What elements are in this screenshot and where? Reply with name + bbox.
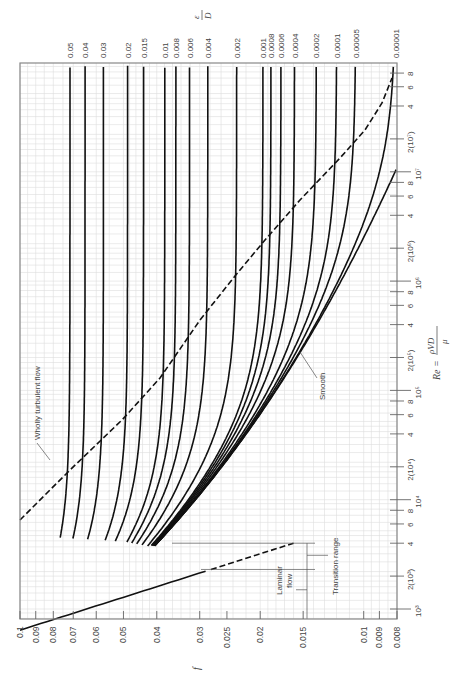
roughness-label: 0.006 bbox=[186, 37, 195, 58]
roughness-label: 0.008 bbox=[172, 37, 181, 58]
f-tick-label: 0.08 bbox=[48, 626, 58, 643]
f-tick-label: 0.05 bbox=[118, 626, 128, 643]
curve-0.05 bbox=[60, 68, 70, 538]
laminar-label: flow bbox=[285, 574, 294, 588]
roughness-label: 0.0002 bbox=[312, 33, 321, 58]
re-tick-label: 10⁶ bbox=[414, 277, 423, 289]
re-tick-label: 4 bbox=[406, 432, 415, 437]
re-tick-label: 4 bbox=[406, 541, 415, 546]
re-tick-label: 8 bbox=[406, 180, 415, 185]
re-tick-label: 8 bbox=[406, 399, 415, 404]
re-tick-label: 4 bbox=[406, 104, 415, 109]
roughness-label: 0.002 bbox=[233, 37, 242, 58]
f-tick-label: 0.09 bbox=[31, 626, 41, 643]
roughness-label: 0.0008 bbox=[267, 33, 276, 58]
re-tick-label: 6 bbox=[406, 413, 415, 418]
moody-diagram: Transition rangeLaminarflowWholly turbul… bbox=[0, 0, 458, 676]
roughness-label: 0.0001 bbox=[333, 33, 342, 58]
re-tick-label: 2(10³) bbox=[406, 568, 415, 590]
roughness-label: 0.015 bbox=[140, 37, 149, 58]
re-tick-label: 6 bbox=[406, 303, 415, 308]
laminar-line bbox=[20, 571, 206, 630]
re-tick-label: 6 bbox=[406, 194, 415, 199]
roughness-axis-title: ε D bbox=[191, 10, 213, 20]
f-axis: 0.10.090.080.070.060.050.040.030.0250.02… bbox=[15, 611, 402, 648]
f-tick-label: 0.01 bbox=[359, 626, 369, 643]
svg-text:D: D bbox=[203, 12, 213, 20]
curve-0.02 bbox=[105, 66, 127, 540]
re-tick-label: 2(10⁷) bbox=[406, 131, 415, 153]
re-tick-label: 8 bbox=[406, 71, 415, 76]
svg-text:Re =: Re = bbox=[431, 360, 442, 381]
re-tick-label: 2(10⁶) bbox=[406, 240, 415, 262]
smooth-label: Smooth bbox=[318, 372, 327, 400]
re-axis: 10³2(10³)46810⁴2(10⁴)46810⁵2(10⁵)46810⁶2… bbox=[390, 71, 423, 617]
f-tick-label: 0.02 bbox=[255, 626, 265, 643]
re-tick-label: 4 bbox=[406, 213, 415, 218]
re-tick-label: 4 bbox=[406, 323, 415, 328]
re-tick-label: 2(10⁴) bbox=[406, 458, 415, 480]
re-tick-label: 10⁵ bbox=[414, 386, 423, 398]
f-tick-label: 0.03 bbox=[195, 626, 205, 643]
wholly-turbulent-label: Wholly turbulent flow bbox=[33, 366, 42, 440]
re-tick-label: 6 bbox=[406, 85, 415, 90]
transition-range-label: Transition range bbox=[331, 537, 340, 595]
roughness-curves bbox=[60, 66, 396, 546]
svg-text:μ: μ bbox=[439, 339, 449, 345]
roughness-labels: 0.050.040.030.020.0150.010.0080.0060.004… bbox=[66, 29, 401, 58]
f-tick-label: 0.04 bbox=[152, 626, 162, 643]
roughness-label: 0.004 bbox=[204, 37, 213, 58]
roughness-label: 0.0004 bbox=[291, 33, 300, 58]
laminar-label: Laminar bbox=[275, 566, 284, 595]
re-tick-label: 10⁷ bbox=[414, 168, 423, 180]
roughness-label: 0.04 bbox=[81, 42, 90, 58]
re-tick-label: 2(10⁵) bbox=[406, 349, 415, 371]
f-tick-label: 0.1 bbox=[15, 626, 25, 638]
roughness-label: 0.01 bbox=[161, 42, 170, 58]
f-tick-label: 0.009 bbox=[374, 626, 384, 648]
roughness-label: 0.0006 bbox=[277, 33, 286, 58]
re-axis-title: Re = ρVD μ bbox=[426, 326, 449, 381]
re-tick-label: 10³ bbox=[414, 605, 423, 617]
re-tick-label: 10⁴ bbox=[414, 495, 423, 508]
re-tick-label: 8 bbox=[406, 508, 415, 513]
re-tick-label: 6 bbox=[406, 522, 415, 527]
curve-0.04 bbox=[73, 66, 85, 538]
curve-0.03 bbox=[88, 67, 104, 539]
f-tick-label: 0.008 bbox=[392, 626, 402, 648]
roughness-label: 0.00001 bbox=[392, 29, 401, 58]
roughness-label: 0.03 bbox=[99, 42, 108, 58]
svg-text:ε: ε bbox=[191, 15, 201, 19]
re-tick-label: 8 bbox=[406, 290, 415, 295]
f-tick-label: 0.07 bbox=[68, 626, 78, 643]
f-tick-label: 0.025 bbox=[222, 626, 232, 648]
f-axis-title: f bbox=[191, 666, 202, 670]
svg-text:ρVD: ρVD bbox=[426, 337, 436, 355]
roughness-label: 0.02 bbox=[124, 42, 133, 58]
roughness-label: 0.05 bbox=[66, 42, 75, 58]
roughness-label: 0.00005 bbox=[352, 29, 361, 58]
f-tick-label: 0.015 bbox=[298, 626, 308, 648]
f-tick-label: 0.06 bbox=[91, 626, 101, 643]
